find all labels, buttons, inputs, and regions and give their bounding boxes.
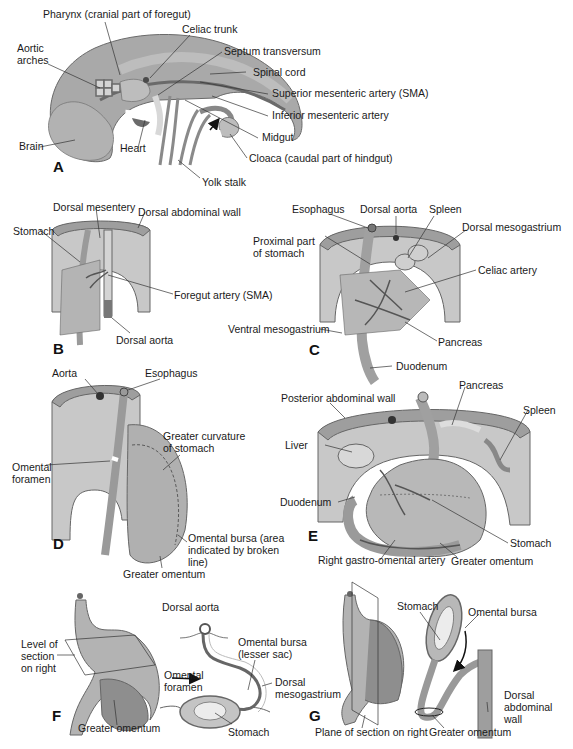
label-omental-foramen-d-2: foramen	[12, 473, 51, 485]
figure-stage: Pharynx (cranial part of foregut) Celiac…	[0, 0, 573, 749]
label-spleen-e: Spleen	[523, 404, 556, 416]
label-omental-bursa-g: Omental bursa	[468, 606, 537, 618]
panel-letter-f: F	[52, 707, 61, 724]
panel-letter-b: B	[53, 340, 64, 357]
label-aorta-d: Aorta	[52, 367, 77, 379]
label-greater-omentum-e: Greater omentum	[451, 555, 533, 567]
label-esophagus-c: Esophagus	[292, 203, 345, 215]
label-omental-foramen-f-1: Omental	[164, 669, 204, 681]
panel-d-drawing	[52, 385, 187, 562]
label-dorsal-abdominal-wall-g-1: Dorsal	[504, 689, 534, 701]
label-yolk-stalk: Yolk stalk	[202, 176, 246, 188]
label-brain: Brain	[19, 140, 44, 152]
label-aortic-arches-1: Aortic	[17, 42, 44, 54]
label-esophagus-d: Esophagus	[145, 367, 198, 379]
label-dorsal-mesentery: Dorsal mesentery	[53, 201, 135, 213]
label-spinal-cord: Spinal cord	[253, 66, 306, 78]
label-dorsal-abdominal-wall: Dorsal abdominal wall	[138, 206, 241, 218]
label-cloaca: Cloaca (caudal part of hindgut)	[249, 152, 393, 164]
panel-letter-g: G	[309, 707, 321, 724]
label-foregut-artery: Foregut artery (SMA)	[174, 289, 273, 301]
label-omental-bursa-d-2: indicated by broken	[188, 544, 279, 556]
label-stomach-b: Stomach	[13, 225, 54, 237]
panel-f-drawing	[65, 593, 270, 735]
label-proximal-stomach-1: Proximal part	[253, 235, 315, 247]
label-spleen-c: Spleen	[429, 203, 462, 215]
label-posterior-abdominal-wall: Posterior abdominal wall	[281, 392, 395, 404]
label-pharynx: Pharynx (cranial part of foregut)	[43, 8, 191, 20]
label-level-of-section-1: Level of	[21, 638, 58, 650]
panel-e-drawing	[318, 392, 530, 557]
label-ima: Inferior mesenteric artery	[272, 109, 389, 121]
label-omental-bursa-d-1: Omental bursa (area	[188, 532, 284, 544]
label-heart: Heart	[120, 142, 146, 154]
label-dorsal-aorta-b: Dorsal aorta	[116, 334, 173, 346]
label-greater-omentum-d: Greater omentum	[123, 568, 205, 580]
label-proximal-stomach-2: of stomach	[253, 247, 304, 259]
label-dorsal-mesogastrium-f-1: Dorsal	[275, 676, 305, 688]
label-omental-foramen-f-2: foramen	[164, 681, 203, 693]
label-plane-of-section: Plane of section on right	[315, 726, 428, 738]
label-dorsal-mesogastrium-c: Dorsal mesogastrium	[462, 221, 561, 233]
label-stomach-g: Stomach	[397, 600, 438, 612]
label-right-gastro-omental: Right gastro-omental artery	[318, 554, 445, 566]
label-dorsal-mesogastrium-f-2: mesogastrium	[275, 688, 341, 700]
panel-letter-c: C	[309, 341, 320, 358]
label-omental-bursa-f-2: (lesser sac)	[238, 648, 292, 660]
label-dorsal-aorta-c: Dorsal aorta	[360, 203, 417, 215]
label-duodenum-e: Duodenum	[280, 496, 331, 508]
label-level-of-section-2: section	[21, 650, 54, 662]
label-duodenum-c: Duodenum	[396, 360, 447, 372]
label-greater-curvature-1: Greater curvature	[163, 430, 245, 442]
label-pancreas-c: Pancreas	[438, 336, 482, 348]
label-dorsal-aorta-f: Dorsal aorta	[162, 601, 219, 613]
label-celiac-artery: Celiac artery	[478, 264, 537, 276]
label-sma: Superior mesenteric artery (SMA)	[272, 87, 428, 99]
panel-letter-d: D	[53, 535, 64, 552]
panel-letter-a: A	[53, 158, 64, 175]
label-omental-foramen-d-1: Omental	[12, 461, 52, 473]
label-ventral-mesogastrium: Ventral mesogastrium	[228, 323, 330, 335]
label-omental-bursa-f-1: Omental bursa	[238, 636, 307, 648]
label-dorsal-abdominal-wall-g-2: abdominal	[504, 701, 552, 713]
label-greater-omentum-g: Greater omentum	[429, 726, 511, 738]
panel-c-drawing	[320, 224, 460, 382]
label-greater-curvature-2: of stomach	[163, 442, 214, 454]
label-stomach-f: Stomach	[228, 726, 269, 738]
label-aortic-arches-2: arches	[17, 54, 49, 66]
label-pancreas-e: Pancreas	[459, 379, 503, 391]
label-dorsal-abdominal-wall-g-3: wall	[504, 713, 522, 725]
label-septum-transversum: Septum transversum	[224, 45, 321, 57]
label-celiac-trunk: Celiac trunk	[182, 23, 237, 35]
label-midgut: Midgut	[262, 131, 294, 143]
label-stomach-e: Stomach	[510, 537, 551, 549]
panel-letter-e: E	[308, 527, 318, 544]
label-liver: Liver	[285, 439, 308, 451]
label-greater-omentum-f: Greater omentum	[78, 722, 160, 734]
label-level-of-section-3: on right	[21, 662, 56, 674]
label-omental-bursa-d-3: line)	[188, 556, 208, 568]
